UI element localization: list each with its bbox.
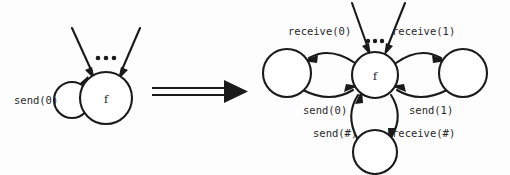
edge-send-0 (303, 84, 359, 97)
diagram-figure: f send(0) (0, 0, 510, 175)
right-right-node (439, 49, 487, 97)
label-receive-1: receive(1) (392, 25, 455, 37)
label-receive-0: receive(0) (288, 25, 351, 37)
edge-send-1 (391, 84, 447, 97)
left-ellipsis (96, 56, 117, 61)
edge-receive-1 (396, 53, 447, 63)
label-receive-hash: receive(#) (392, 127, 455, 139)
left-incoming-arrow-1 (72, 28, 95, 80)
left-send-0-label: send(0) (14, 94, 58, 106)
label-send-1: send(1) (409, 104, 453, 116)
left-diagram: f send(0) (14, 28, 140, 124)
right-ellipsis (366, 39, 384, 43)
implies-arrow (152, 80, 248, 103)
right-incoming-arrow-1 (352, 3, 371, 56)
right-diagram: f receive(0) receive(1) send(0) send(1) … (263, 3, 487, 174)
diagram-canvas: f send(0) (0, 0, 510, 175)
edge-receive-0 (303, 53, 355, 63)
right-left-node (263, 49, 311, 97)
label-send-hash: send(#) (313, 127, 357, 139)
left-incoming-arrow-2 (118, 28, 140, 80)
right-bottom-node (353, 130, 397, 174)
label-send-0: send(0) (303, 104, 347, 116)
